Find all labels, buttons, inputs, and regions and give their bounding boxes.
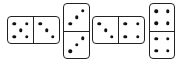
pip-dot: [75, 43, 79, 47]
domino-half-bottom: [150, 31, 174, 59]
domino-half-top: [150, 4, 174, 31]
pip-dot: [13, 35, 17, 39]
pip-dot: [75, 16, 79, 20]
pip-dot: [155, 37, 159, 41]
domino-board: [0, 0, 180, 64]
pip-dot: [155, 22, 159, 26]
domino-half-right: [118, 17, 144, 43]
pip-dot: [110, 35, 114, 39]
pip-dot: [166, 37, 170, 41]
pip-dot: [39, 22, 43, 26]
domino-3-3[interactable]: [63, 3, 90, 59]
domino-half-bottom: [64, 31, 89, 59]
domino-half-left: [8, 17, 33, 43]
pip-dot: [25, 22, 29, 26]
domino-half-left: [93, 17, 118, 43]
pip-dot: [13, 22, 17, 26]
pip-dot: [166, 9, 170, 13]
pip-dot: [25, 35, 29, 39]
pip-dot: [166, 49, 170, 53]
pip-dot: [81, 9, 85, 13]
domino-half-top: [64, 4, 89, 31]
domino-4-4[interactable]: [149, 3, 175, 59]
pip-dot: [124, 35, 128, 39]
pip-dot: [98, 22, 102, 26]
pip-dot: [155, 49, 159, 53]
pip-dot: [69, 50, 73, 54]
pip-dot: [166, 22, 170, 26]
pip-dot: [104, 28, 108, 32]
pip-dot: [124, 22, 128, 26]
pip-dot: [155, 9, 159, 13]
pip-dot: [69, 22, 73, 26]
pip-dot: [81, 36, 85, 40]
domino-3-4[interactable]: [92, 16, 145, 44]
pip-dot: [136, 35, 140, 39]
pip-dot: [19, 28, 23, 32]
domino-half-right: [33, 17, 59, 43]
pip-dot: [45, 28, 49, 32]
pip-dot: [136, 22, 140, 26]
pip-dot: [51, 35, 55, 39]
domino-5-3[interactable]: [7, 16, 60, 44]
